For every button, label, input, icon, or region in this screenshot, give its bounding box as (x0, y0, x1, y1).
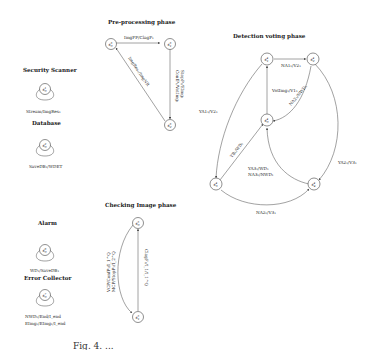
edge-label-na1: NA1₁/V2₁ (281, 63, 301, 68)
preprocessing-phase: Pre-processing phase s30 s31 s32 ImgFP/C… (106, 19, 186, 131)
detection-voting-phase: Detection voting phase s41 s42 s40 (198, 33, 357, 215)
edge-label-ya2: YA2₁/V3₁ (337, 160, 357, 165)
detection-voting-title: Detection voting phase (233, 33, 306, 40)
security-scanner-title: Security Scanner (23, 67, 77, 74)
checking-image-phase: Checking Image phase s50 s51 VCP/ConfP₁/… (105, 202, 177, 323)
edge-s32-s30 (116, 48, 165, 121)
edge-s50-s51 (118, 225, 133, 313)
alarm-title: Alarm (37, 220, 57, 226)
error-collector: Error Collector s70 NWD₁/End/I_end EImg₁… (24, 275, 71, 326)
error-loop-label-2: EImg₁/EImg₁/I_end (25, 321, 66, 326)
edge-label-yb: YB₁/WD₁ (228, 141, 244, 160)
database-loop-label: SaveDB₁/WDET (29, 164, 62, 169)
node-s3-0: s30 (106, 39, 117, 50)
alarm: Alarm s60 WD₁/SaveDB₁ (30, 220, 59, 273)
node-s3-1: s31 (165, 39, 176, 50)
edge-label-clagf: ClagF₁/I_1/I_1^Q (144, 249, 149, 286)
checking-image-title: Checking Image phase (105, 202, 177, 209)
alarm-loop-label: WD₁/SaveDB₁ (30, 268, 59, 273)
edge-label-votimg: VotImg₁/V1₁ (271, 88, 298, 93)
node-s5-1: s51 (133, 312, 144, 323)
state-machine-diagram: Pre-processing phase s30 s31 s32 ImgFP/C… (0, 0, 381, 350)
node-s4-3: s43 (210, 178, 222, 190)
edge-label-ya3: YA3₁/WD₁ (247, 166, 269, 171)
node-s4-0: s40 (261, 114, 273, 126)
edge-label-mcp: MCP/StopP₁/I_2^Q (111, 251, 116, 292)
error-collector-title: Error Collector (24, 275, 71, 281)
edge-label-imgfp: ImgFP/ClagF₁ (124, 35, 154, 40)
node-s4-1: s41 (261, 53, 273, 65)
figure-caption: Fig. 4. ... (73, 341, 114, 350)
edge-label-na2-v3: NA2₁/V3₁ (256, 210, 276, 215)
preprocessing-title: Pre-processing phase (108, 19, 176, 26)
scanner-loop-label: Stream/ImgRes₁ (26, 109, 61, 114)
edge-s42-s40 (273, 66, 311, 121)
error-loop-label-1: NWD₁/End/I_end (25, 314, 61, 319)
database: Database s20 SaveDB₁/WDET (29, 120, 62, 169)
edge-s43-s44 (221, 189, 309, 205)
edge-label-ya1: YA1₁/V2₁ (198, 109, 218, 114)
node-s5-0: s50 (133, 218, 144, 229)
edge-label-na3: NA3₁/NWD₁ (248, 172, 274, 177)
node-s4-2: s42 (307, 53, 319, 65)
security-scanner: Security Scanner s10 Stream/ImgRes₁ (23, 67, 77, 114)
node-s4-4: s44 (308, 178, 320, 190)
database-title: Database (32, 120, 61, 126)
edge-s41-s43 (216, 64, 262, 178)
edge-label-stopp: StopP₁/EImg₁ (180, 70, 185, 99)
edge-label-imgres: ImgRes₁/ImgNR (127, 56, 151, 88)
node-s3-2: s32 (165, 120, 176, 131)
edge-label-confp: ConfP₁/VotImg₁ (175, 70, 180, 103)
edge-s42-s44 (315, 64, 338, 180)
